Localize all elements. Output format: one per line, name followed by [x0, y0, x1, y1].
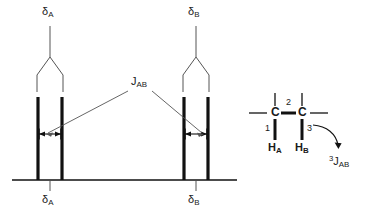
hydrogen-a-label: HA [268, 142, 282, 155]
multiplet-b-group [183, 26, 209, 191]
figure-vector-layer [0, 0, 368, 214]
multiplet-a-group [37, 26, 63, 191]
multiplet-a-top-label: δA [42, 6, 53, 19]
multiplet-b-axis-label: δB [188, 194, 199, 207]
coupling-constant-label: JAB [131, 76, 147, 89]
coupling-label-leader-lines [46, 91, 204, 137]
carbon-left-label: C [271, 106, 280, 118]
multiplet-a-tree-branch-left [37, 57, 50, 75]
bond-label-three: 3 [307, 124, 312, 133]
leader-line-to-multiplet-b [152, 91, 202, 133]
carbon-right-label: C [298, 106, 307, 118]
hydrogen-b-label: HB [295, 142, 309, 155]
vicinal-coupling-label: 3JAB [329, 155, 349, 169]
bond-label-one: 1 [265, 124, 270, 133]
multiplet-b-tree-branch-right [196, 57, 209, 75]
multiplet-b-top-label: δB [188, 6, 199, 19]
coupling-path-curved-arrow [313, 125, 338, 145]
bond-label-two: 2 [286, 98, 291, 107]
nmr-coupling-figure: δA δB JAB δA δB C C 2 1 3 HA HB 3JAB [0, 0, 368, 214]
multiplet-b-tree-branch-left [183, 57, 196, 75]
multiplet-a-tree-branch-right [50, 57, 63, 75]
leader-line-to-multiplet-a [48, 91, 128, 133]
multiplet-a-axis-label: δA [42, 194, 53, 207]
